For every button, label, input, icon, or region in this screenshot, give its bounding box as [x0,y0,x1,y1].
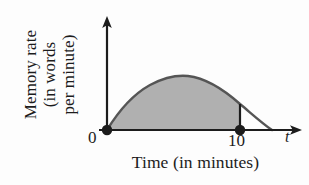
memory-rate-chart: Memory rate (in words per minute) Time (… [0,0,309,185]
plot-area [0,0,309,185]
origin-point-marker [102,125,112,135]
point-marker-at-ten [235,125,245,135]
